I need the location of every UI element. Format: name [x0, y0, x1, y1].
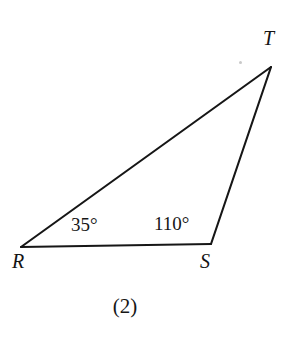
side-ST — [211, 67, 271, 244]
side-TR — [21, 67, 271, 247]
angle-label-s: 110° — [154, 214, 189, 233]
side-RS — [21, 244, 211, 247]
figure-caption: (2) — [0, 296, 250, 317]
vertex-label-s: S — [200, 251, 210, 271]
angle-label-r: 35° — [71, 215, 98, 234]
triangle-drawing — [0, 0, 285, 346]
scan-artifact-speck — [239, 61, 242, 64]
geometry-figure: R S T 35° 110° (2) — [0, 0, 285, 346]
vertex-label-r: R — [12, 251, 24, 271]
vertex-label-t: T — [263, 28, 274, 48]
